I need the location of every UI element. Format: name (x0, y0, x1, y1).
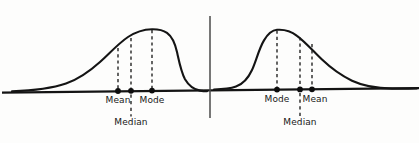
right-median-dot (297, 87, 303, 93)
right-mean-dot (309, 86, 315, 92)
right-median-label: Median (283, 117, 316, 127)
left-median-dot (128, 88, 134, 94)
distribution-chart-svg (0, 0, 419, 143)
left-mode-label: Mode (140, 95, 165, 105)
left-skewed-curve (12, 29, 207, 91)
right-mode-dot (274, 87, 280, 93)
left-mean-label: Mean (106, 95, 131, 105)
skewed-distributions-figure: Mean Mode Median Mode Mean Median (0, 0, 419, 143)
right-skewed-curve (214, 30, 417, 90)
right-mean-label: Mean (303, 94, 328, 104)
right-mode-label: Mode (265, 94, 290, 104)
left-mode-dot (149, 88, 155, 94)
left-mean-dot (115, 88, 121, 94)
left-median-label: Median (114, 117, 147, 127)
